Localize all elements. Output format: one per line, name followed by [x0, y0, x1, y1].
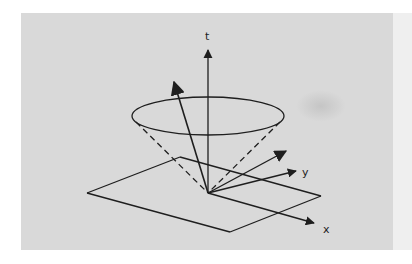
y-axis-label: y	[302, 166, 309, 179]
t-axis-label: t	[205, 30, 210, 43]
spacelike-vector	[208, 151, 286, 193]
spatial-plane	[87, 157, 321, 232]
tilted-vector	[174, 82, 208, 193]
light-cone-diagram: t y x	[0, 0, 412, 264]
x-axis-label: x	[323, 223, 330, 236]
y-axis	[208, 171, 296, 193]
x-axis	[208, 193, 314, 223]
